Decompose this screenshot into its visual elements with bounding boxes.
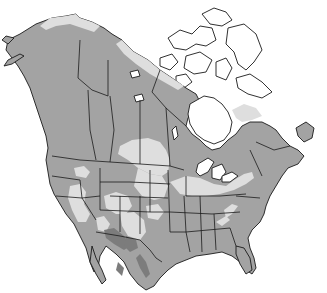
range-map <box>0 0 327 293</box>
